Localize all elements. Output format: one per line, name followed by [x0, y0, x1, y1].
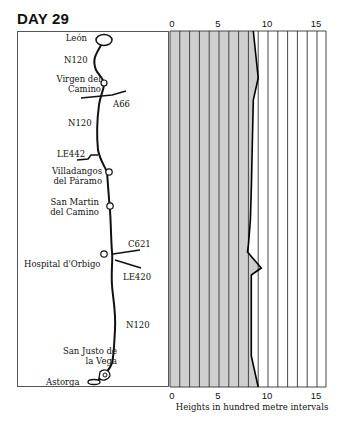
x-tick-bottom-5: 5: [215, 390, 220, 401]
villadangos-town-icon: [106, 169, 112, 175]
place-label-san-justo: San Justo de la Vega: [55, 346, 117, 366]
place-label-villadangos: Villadangos del Páramo: [20, 166, 102, 186]
x-tick-bottom-15: 15: [311, 390, 322, 401]
x-tick-top-0: 0: [169, 18, 174, 29]
road-label-n120-3: N120: [126, 320, 150, 330]
place-label-san-martin-text: San Martin del Camino: [50, 197, 99, 217]
virgen-town-icon: [101, 80, 107, 86]
place-label-virgen-del-camino: Virgen del Camino: [24, 74, 101, 94]
place-label-san-martin: San Martin del Camino: [20, 197, 99, 217]
road-label-a66: A66: [113, 99, 130, 109]
place-label-astorga: Astorga: [46, 377, 80, 387]
elevation-area: [170, 31, 261, 387]
road-label-le420: LE420: [123, 272, 151, 282]
x-tick-bottom-0: 0: [169, 390, 174, 401]
road-label-c621: C621: [128, 239, 151, 249]
le420-road: [115, 260, 141, 268]
x-axis-label: Heights in hundred metre intervals: [172, 402, 332, 412]
leon-town-icon: [96, 35, 112, 46]
road-label-n120-2: N120: [68, 118, 92, 128]
hospital-town-icon: [101, 251, 107, 257]
san-martin-town-icon: [107, 203, 113, 209]
place-label-san-justo-text: San Justo de la Vega: [63, 346, 117, 366]
place-label-hospital-dorbigo: Hospital d'Orbigo: [24, 259, 100, 269]
x-tick-top-5: 5: [215, 18, 220, 29]
place-label-virgen-text: Virgen del Camino: [56, 74, 101, 94]
x-tick-bottom-10: 10: [262, 390, 273, 401]
road-label-n120-1: N120: [64, 55, 88, 65]
c621-road: [113, 250, 140, 254]
road-label-le442: LE442: [57, 149, 85, 159]
place-label-villadangos-text: Villadangos del Páramo: [52, 166, 102, 186]
place-label-leon: León: [37, 33, 87, 43]
elevation-chart: [170, 31, 326, 387]
x-tick-top-10: 10: [262, 18, 273, 29]
x-tick-top-15: 15: [311, 18, 322, 29]
